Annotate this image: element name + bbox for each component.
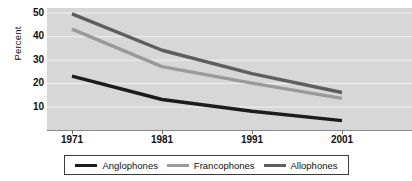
legend-label: Allophones — [291, 160, 338, 171]
x-tick-mark — [72, 130, 73, 134]
chart-legend: AnglophonesFrancophonesAllophones — [64, 155, 349, 175]
legend-item-allophones[interactable]: Allophones — [264, 160, 338, 171]
plot-svg — [47, 8, 412, 130]
y-tick-label: 30 — [18, 55, 44, 65]
legend-label: Francophones — [194, 160, 255, 171]
line-chart: Percent 1020304050 1971198119912001 Angl… — [0, 0, 412, 181]
series-line-allophones — [72, 14, 342, 93]
x-tick-label: 1981 — [151, 134, 173, 145]
x-tick-mark — [252, 130, 253, 134]
legend-item-francophones[interactable]: Francophones — [167, 160, 255, 171]
y-tick-label: 20 — [18, 78, 44, 88]
legend-swatch-icon — [75, 164, 97, 167]
x-tick-label: 2001 — [331, 134, 353, 145]
x-tick-mark — [162, 130, 163, 134]
legend-swatch-icon — [167, 164, 189, 167]
plot-area — [47, 8, 412, 130]
x-tick-label: 1991 — [241, 134, 263, 145]
x-axis-line — [47, 130, 412, 131]
y-tick-label: 50 — [18, 8, 44, 18]
legend-item-anglophones[interactable]: Anglophones — [75, 160, 157, 171]
x-tick-label: 1971 — [61, 134, 83, 145]
y-tick-label: 10 — [18, 102, 44, 112]
legend-label: Anglophones — [102, 160, 157, 171]
y-axis-tick-labels: 1020304050 — [0, 0, 44, 181]
x-tick-mark — [342, 130, 343, 134]
legend-swatch-icon — [264, 164, 286, 167]
y-tick-label: 40 — [18, 31, 44, 41]
